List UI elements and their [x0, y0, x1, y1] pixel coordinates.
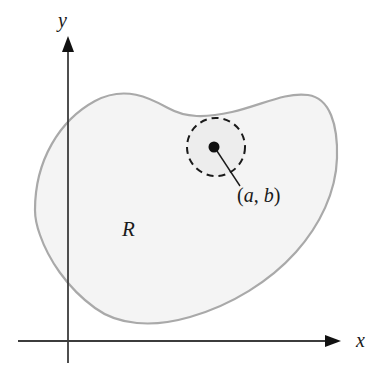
arrow-right-icon [325, 335, 341, 347]
separator: , [254, 184, 264, 206]
region-diagram: y x R (a, b) [0, 0, 377, 375]
var-a: a [244, 184, 254, 206]
x-axis: x [18, 329, 365, 351]
x-axis-label: x [355, 329, 365, 351]
region-r-shape [35, 93, 337, 323]
region-label-r: R [121, 217, 135, 241]
y-axis-label: y [56, 9, 67, 32]
arrow-up-icon [62, 36, 74, 52]
point-marker-dot [209, 142, 220, 153]
point-label-ab: (a, b) [237, 184, 280, 207]
figure-container: y x R (a, b) [0, 0, 377, 375]
paren-close: ) [274, 184, 281, 207]
var-b: b [264, 184, 274, 206]
